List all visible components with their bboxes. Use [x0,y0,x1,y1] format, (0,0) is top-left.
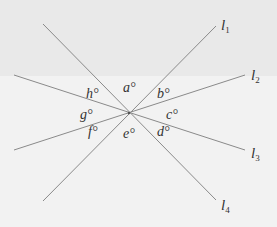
angle-label-f: f° [88,125,98,139]
angle-label-c: c° [166,108,178,122]
intersection-point [128,112,131,115]
line-label-l4: l4 [221,198,230,215]
line-label-l1: l1 [221,18,230,35]
angle-label-b: b° [157,87,170,101]
line-label-l3: l3 [251,146,260,163]
line-label-l2: l2 [251,68,260,85]
angle-label-h: h° [86,87,99,101]
diagram-canvas: l1 l2 l3 l4 a° b° c° d° e° f° g° h° [0,0,277,227]
angle-label-d: d° [157,125,170,139]
angle-label-g: g° [80,108,93,122]
lines-layer [0,0,277,227]
angle-label-a: a° [123,81,136,95]
angle-label-e: e° [123,127,135,141]
